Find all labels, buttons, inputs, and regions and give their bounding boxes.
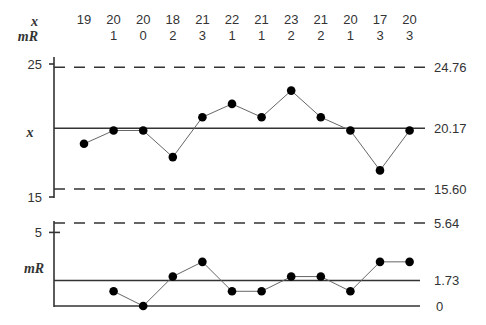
table-mr-value: 3 — [199, 28, 206, 43]
x-chart-point — [376, 166, 385, 175]
table-x-value: 19 — [77, 12, 91, 27]
mr-chart-ylabel: mR — [24, 261, 44, 276]
table-x-value: 18 — [166, 12, 180, 27]
table-x-value: 20 — [343, 12, 357, 27]
table-row-label-x: x — [30, 14, 38, 29]
x-chart-point — [346, 126, 355, 135]
x-chart-center-label: 20.17 — [434, 121, 467, 136]
mr-chart-point — [287, 272, 296, 281]
table-mr-value: 0 — [140, 28, 147, 43]
table-x-value: 23 — [284, 12, 298, 27]
mr-chart-point — [109, 287, 118, 296]
table-x-value: 20 — [402, 12, 416, 27]
mr-chart-connector — [114, 291, 144, 306]
x-chart-point — [198, 113, 207, 122]
table-values: 19202018212221232120172010231122133 — [77, 12, 417, 43]
x-chart-ucl-label: 24.76 — [434, 60, 467, 75]
x-chart: 25 15 x 24.76 20.17 15.60 — [26, 57, 467, 205]
mr-chart-point — [198, 258, 207, 267]
x-chart-connector — [380, 131, 410, 171]
mr-chart-point — [317, 272, 326, 281]
mr-chart-point — [169, 272, 178, 281]
x-chart-point — [109, 126, 118, 135]
x-chart-ylabel: x — [26, 125, 34, 140]
table-mr-value: 3 — [376, 28, 383, 43]
mr-chart-ytick-label-5: 5 — [35, 225, 42, 240]
table-mr-value: 1 — [228, 28, 235, 43]
x-chart-connector — [143, 131, 173, 158]
mr-chart-connector — [173, 262, 203, 277]
x-chart-lcl-label: 15.60 — [434, 182, 467, 197]
table-mr-value: 1 — [258, 28, 265, 43]
mr-chart-connector — [202, 262, 232, 291]
x-chart-point — [287, 86, 296, 95]
mr-chart-center-label: 1.73 — [434, 273, 459, 288]
x-chart-point — [169, 153, 178, 162]
table-row-label-mr: mR — [18, 29, 38, 44]
mr-chart-point — [346, 287, 355, 296]
mr-chart-point — [376, 258, 385, 267]
table-x-value: 22 — [225, 12, 239, 27]
table-x-value: 21 — [254, 12, 268, 27]
x-chart-point — [405, 126, 414, 135]
table-x-value: 20 — [136, 12, 150, 27]
mr-chart-point — [228, 287, 237, 296]
table-x-value: 20 — [106, 12, 120, 27]
mr-chart-series — [109, 258, 414, 311]
x-chart-connector — [232, 104, 262, 117]
x-chart-connector — [84, 131, 114, 144]
x-chart-ytick-label-15: 15 — [28, 190, 42, 205]
x-chart-ytick-label-25: 25 — [28, 57, 42, 72]
mr-chart-ucl-label: 5.64 — [434, 216, 459, 231]
x-chart-point — [257, 113, 266, 122]
table-mr-value: 1 — [110, 28, 117, 43]
mr-chart-point — [405, 258, 414, 267]
x-chart-connector — [173, 117, 203, 157]
x-chart-point — [139, 126, 148, 135]
x-chart-point — [317, 113, 326, 122]
mr-chart-connector — [262, 277, 292, 292]
table-x-value: 21 — [195, 12, 209, 27]
table-mr-value: 2 — [169, 28, 176, 43]
control-chart: x mR 19202018212221232120172010231122133… — [0, 0, 486, 325]
mr-chart: 5 mR 5.64 1.73 0 — [24, 216, 459, 314]
x-chart-series — [80, 86, 414, 174]
mr-chart-point — [139, 302, 148, 311]
mr-chart-lcl-label: 0 — [436, 299, 443, 314]
x-chart-connector — [202, 104, 232, 117]
x-chart-connector — [291, 91, 321, 118]
table-mr-value: 2 — [288, 28, 295, 43]
mr-chart-connector — [350, 262, 380, 291]
table-mr-value: 2 — [317, 28, 324, 43]
table-x-value: 21 — [314, 12, 328, 27]
x-chart-point — [80, 140, 89, 149]
table-mr-value: 3 — [406, 28, 413, 43]
mr-chart-point — [257, 287, 266, 296]
x-chart-connector — [350, 131, 380, 171]
x-chart-connector — [262, 91, 292, 118]
mr-chart-connector — [321, 277, 351, 292]
table-mr-value: 1 — [347, 28, 354, 43]
table-x-value: 17 — [373, 12, 387, 27]
x-chart-point — [228, 100, 237, 109]
